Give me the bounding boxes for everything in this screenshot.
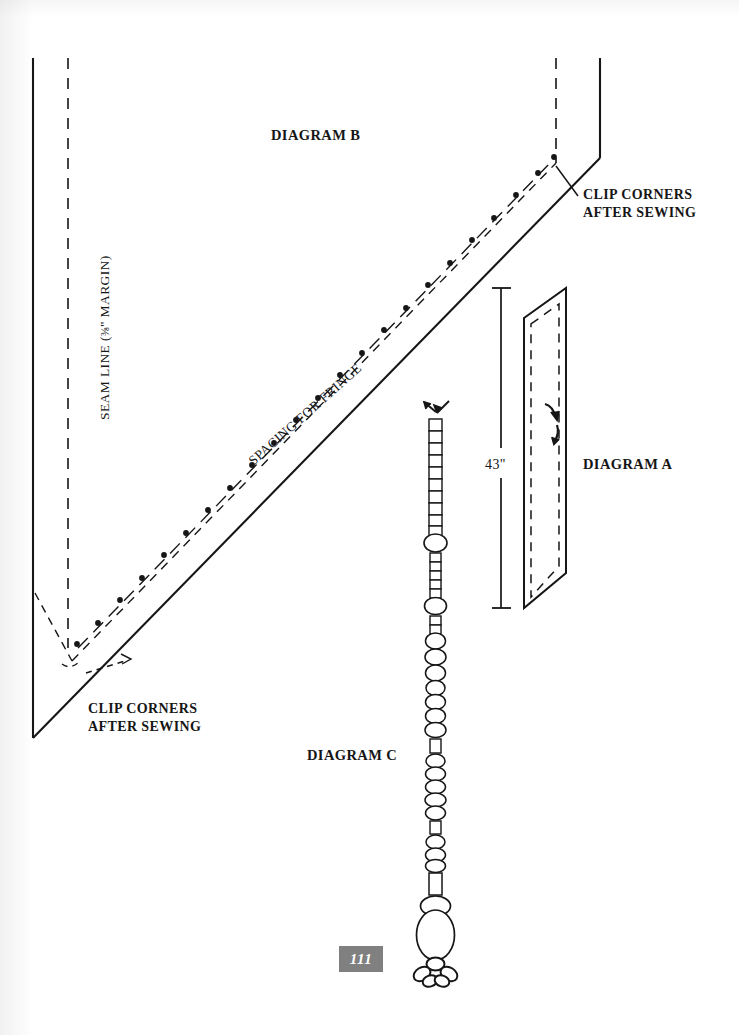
tassel-top-arrow	[424, 401, 449, 413]
seam-line-fraction: ⅜	[99, 327, 111, 336]
diagram-a-title: DIAGRAM A	[583, 455, 672, 474]
panel-tick-lower-head	[552, 437, 559, 444]
clip-corners-top-line1: CLIP CORNERS	[583, 186, 696, 204]
tassel-oval-bead-2	[425, 598, 447, 615]
clip-corners-bottom-caption: CLIP CORNERS AFTER SEWING	[88, 700, 201, 736]
diagram-c-title: DIAGRAM C	[307, 746, 397, 765]
clip-corners-top-caption: CLIP CORNERS AFTER SEWING	[583, 186, 696, 222]
tassel-round-beads-2	[425, 754, 446, 820]
tassel-square-beads-mid	[430, 553, 441, 598]
diagram-c-graphic	[411, 401, 460, 989]
panel-seam-line	[531, 304, 559, 597]
tassel-square-beads-mid2	[430, 616, 441, 634]
clip-corners-bottom-arrowhead	[121, 654, 131, 664]
page-number: 111	[339, 946, 383, 972]
tassel-round-beads	[425, 633, 446, 738]
clip-corners-bottom-line2: AFTER SEWING	[88, 718, 201, 736]
tassel-round-beads-3	[426, 835, 446, 873]
seam-line-prefix: SEAM LINE (	[97, 336, 112, 420]
tassel-bugle-bead	[429, 873, 442, 895]
seam-clip-corner-bottom	[35, 593, 72, 661]
dimension-43-label: 43"	[485, 456, 506, 474]
tassel-square-beads-upper	[429, 419, 442, 537]
cut-edge-diagonal	[33, 158, 600, 738]
tassel-square-bead-a	[430, 739, 441, 753]
tassel-oval-bead-large	[417, 910, 455, 960]
tassel-square-bead-b	[430, 821, 441, 834]
seam-line-suffix: " MARGIN)	[97, 255, 112, 327]
page-artwork	[0, 0, 739, 1035]
diagram-a-graphic	[492, 288, 566, 608]
seam-line-label: SEAM LINE (⅜" MARGIN)	[96, 255, 113, 420]
panel-tick-upper-head	[551, 411, 559, 420]
tassel-bottom-cluster	[411, 958, 460, 989]
tassel-oval-bead-1	[424, 534, 447, 552]
clip-corners-top-line2: AFTER SEWING	[583, 204, 696, 222]
diagram-b-title: DIAGRAM B	[271, 126, 360, 145]
clip-corners-bottom-line1: CLIP CORNERS	[88, 700, 201, 718]
seam-clip-corner-bottom-curve	[62, 662, 79, 667]
diagram-page: DIAGRAM B DIAGRAM A DIAGRAM C CLIP CORNE…	[0, 0, 739, 1035]
